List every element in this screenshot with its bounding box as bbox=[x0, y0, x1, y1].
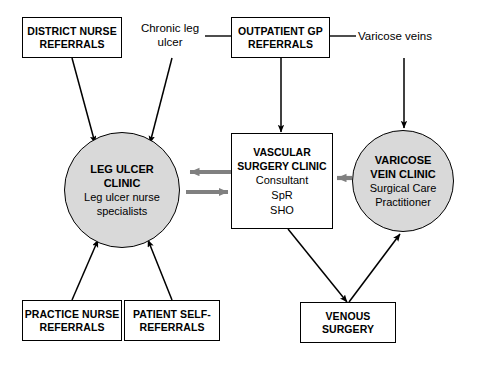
box-patient-self-referrals: PATIENT SELF- REFERRALS bbox=[124, 300, 220, 341]
annotation-line: Varicose veins bbox=[358, 29, 458, 43]
box-line: PRACTICE NURSE bbox=[25, 308, 120, 321]
clinic-leg-ulcer-clinic: LEG ULCER CLINIC Leg ulcer nurse special… bbox=[64, 132, 180, 248]
box-district-nurse-referrals: DISTRICT NURSE REFERRALS bbox=[22, 17, 122, 58]
box-line: SURGERY bbox=[322, 323, 374, 336]
box-line: PATIENT SELF- bbox=[133, 308, 211, 321]
edge-district-nurse-to-leg-ulcer bbox=[72, 58, 95, 143]
clinic-sub-line: Surgical Care bbox=[370, 181, 437, 195]
clinic-title-line: VEIN CLINIC bbox=[370, 167, 435, 181]
box-outpatient-gp-referrals: OUTPATIENT GP REFERRALS bbox=[231, 17, 330, 58]
clinic-title-line: VARICOSE bbox=[375, 153, 432, 167]
edge-patient-self-to-leg-ulcer bbox=[148, 240, 172, 300]
box-line: DISTRICT NURSE bbox=[27, 25, 117, 38]
edge-vascular-to-venous-surgery bbox=[288, 229, 347, 302]
center-role: Consultant bbox=[256, 173, 309, 188]
referral-pathway-diagram: DISTRICT NURSE REFERRALS Chronic leg ulc… bbox=[0, 0, 486, 366]
center-role: SHO bbox=[270, 203, 294, 218]
center-title-line: VASCULAR bbox=[253, 145, 311, 159]
box-line: OUTPATIENT GP bbox=[238, 25, 323, 38]
edge-chronic-leg-ulcer-to-leg-ulcer bbox=[150, 58, 172, 143]
annotation-chronic-leg-ulcer: Chronic leg ulcer bbox=[135, 21, 205, 49]
box-line: REFERRALS bbox=[139, 321, 204, 334]
edge-venous-surgery-to-varicose-clinic bbox=[349, 234, 400, 302]
annotation-line: Chronic leg bbox=[135, 21, 205, 35]
clinic-sub-line: Practitioner bbox=[375, 195, 431, 209]
box-vascular-surgery-clinic: VASCULAR SURGERY CLINIC Consultant SpR S… bbox=[231, 133, 333, 229]
box-venous-surgery: VENOUS SURGERY bbox=[300, 302, 396, 343]
box-line: REFERRALS bbox=[248, 38, 313, 51]
annotation-line: ulcer bbox=[135, 35, 205, 49]
box-line: REFERRALS bbox=[39, 321, 104, 334]
box-line: REFERRALS bbox=[39, 38, 104, 51]
center-role: SpR bbox=[271, 188, 292, 203]
box-practice-nurse-referrals: PRACTICE NURSE REFERRALS bbox=[22, 300, 122, 341]
annotation-varicose-veins: Varicose veins bbox=[358, 29, 458, 43]
clinic-varicose-vein-clinic: VARICOSE VEIN CLINIC Surgical Care Pract… bbox=[352, 130, 454, 232]
box-line: VENOUS bbox=[326, 310, 371, 323]
clinic-sub-line: specialists bbox=[97, 204, 148, 218]
center-title-line: SURGERY CLINIC bbox=[237, 159, 326, 173]
clinic-title-line: LEG ULCER bbox=[90, 162, 154, 176]
clinic-title-line: CLINIC bbox=[104, 176, 141, 190]
edge-practice-nurse-to-leg-ulcer bbox=[72, 240, 98, 300]
clinic-sub-line: Leg ulcer nurse bbox=[84, 190, 160, 204]
